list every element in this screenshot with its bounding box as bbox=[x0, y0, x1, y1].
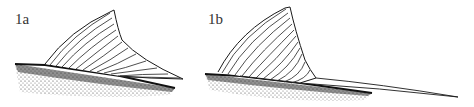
fin-1a bbox=[15, 10, 183, 97]
fin-illustrations bbox=[0, 0, 474, 107]
fin-1b bbox=[205, 7, 458, 101]
